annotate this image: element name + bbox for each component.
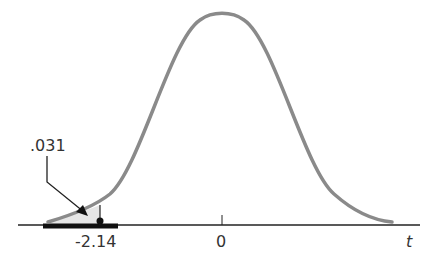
- axis-label-t: t: [406, 232, 412, 251]
- critical-value-dot: [97, 218, 104, 225]
- annotation-arrow-line: [47, 156, 84, 212]
- zero-label: 0: [216, 232, 226, 251]
- density-curve: [48, 13, 392, 222]
- tail-area-label: .031: [30, 136, 66, 155]
- critical-value-label: -2.14: [75, 232, 116, 251]
